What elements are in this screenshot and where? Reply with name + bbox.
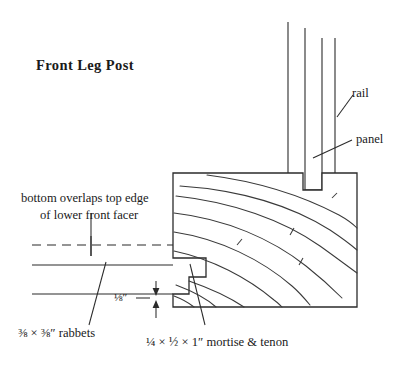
gap-arrow-upper-head <box>153 288 160 296</box>
rabbets-label: ⅜ × ⅜″ rabbets <box>18 325 95 342</box>
facer-profile-group <box>32 236 175 294</box>
technical-drawing-canvas <box>0 0 415 365</box>
panel-leader-line <box>313 140 352 158</box>
vertical-members-group <box>288 22 335 190</box>
mortise-tenon-label: ¼ × ½ × 1″ mortise & tenon <box>146 334 288 351</box>
overlap-note-line-1: bottom overlaps top edge <box>21 190 149 207</box>
rail-leader-line <box>337 95 353 117</box>
front-leg-post-figure: Front Leg Post rail panel bottom overlap… <box>0 0 415 365</box>
panel-label: panel <box>356 131 383 148</box>
rail-label: rail <box>352 85 369 102</box>
overlap-note-line-2: of lower front facer <box>40 207 138 224</box>
gap-dimension-group <box>136 281 159 318</box>
gap-dimension-label: ⅛″ <box>114 290 127 305</box>
page-title: Front Leg Post <box>36 57 134 74</box>
gap-arrow-lower-head <box>153 300 160 308</box>
